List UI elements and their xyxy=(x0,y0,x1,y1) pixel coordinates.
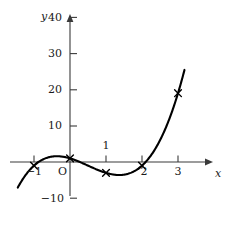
y-axis-ticks xyxy=(70,17,77,198)
y-tick-label-30: 30 xyxy=(40,48,62,59)
data-point-markers xyxy=(31,90,182,176)
x-tick-label-minus-1: −1 xyxy=(22,166,46,177)
origin-label: O xyxy=(58,166,67,177)
x-tick-label-3: 3 xyxy=(170,166,186,177)
x-axis-label: x xyxy=(215,168,221,179)
y-axis-label: y xyxy=(41,11,47,22)
y-tick-label-20: 20 xyxy=(40,84,62,95)
x-tick-label-2: 2 xyxy=(136,166,152,177)
y-tick-label-10: 10 xyxy=(40,120,62,131)
cubic-graph-figure: 40 30 20 10 −10 −1 1 2 3 O y x xyxy=(0,0,231,225)
x-tick-label-1: 1 xyxy=(98,140,114,151)
plot-canvas xyxy=(0,0,231,225)
y-tick-label-minus-10: −10 xyxy=(36,193,64,204)
y-axis xyxy=(67,14,74,196)
